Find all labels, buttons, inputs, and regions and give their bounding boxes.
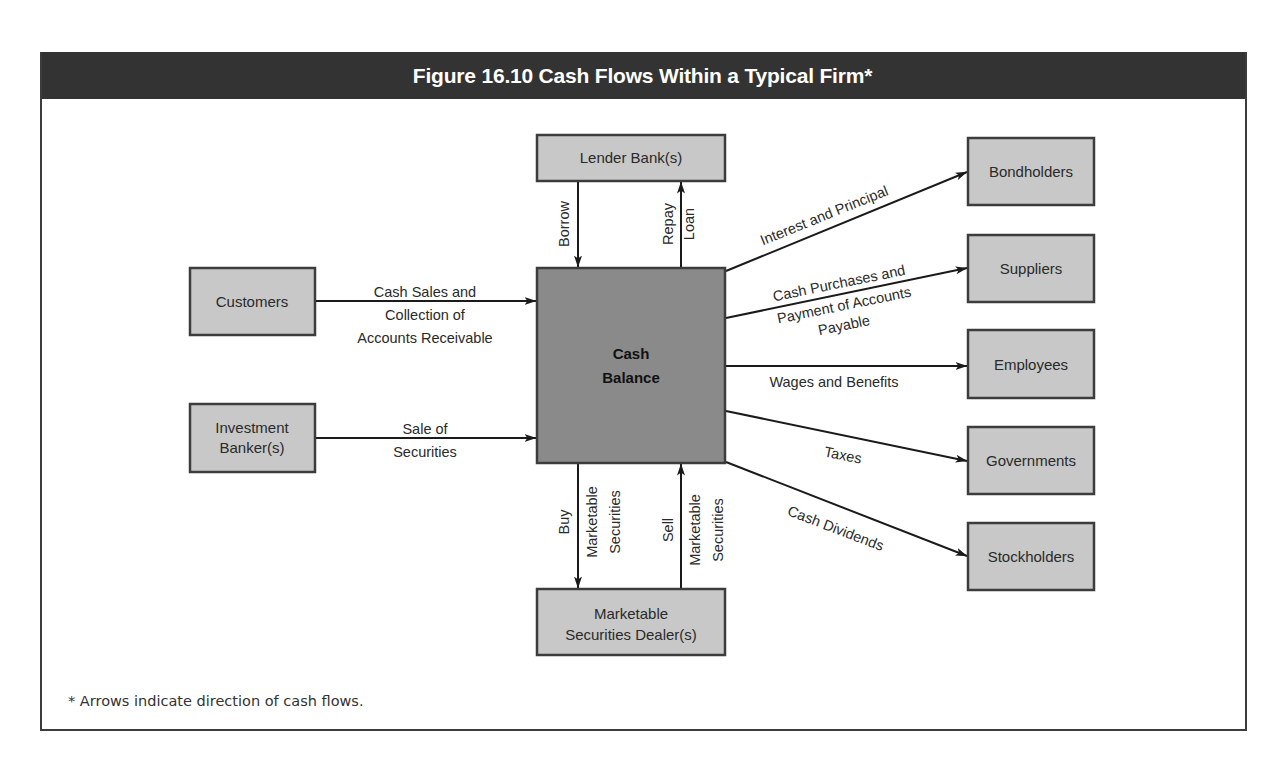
flow-investment-line2: Securities [393, 444, 457, 460]
bondholders-label: Bondholders [989, 163, 1073, 180]
flow-customers-line2: Collection of [385, 307, 466, 323]
flow-buy-line1: Buy [556, 509, 572, 535]
investment-label-line2: Banker(s) [219, 439, 284, 456]
flow-employees: Wages and Benefits [769, 374, 898, 390]
lender-bank-label: Lender Bank(s) [580, 149, 683, 166]
figure-footnote: * Arrows indicate direction of cash flow… [68, 693, 364, 709]
flow-buy-line3: Securities [607, 490, 623, 554]
stockholders-label: Stockholders [988, 548, 1075, 565]
flow-sell-line3: Securities [710, 498, 726, 562]
suppliers-label: Suppliers [1000, 260, 1063, 277]
flow-investment-line1: Sale of [402, 421, 448, 437]
cash-flow-diagram: Lender Bank(s) Customers Investment Bank… [0, 0, 1284, 762]
flow-sell-line2: Marketable [687, 494, 703, 566]
arrow-to-stockholders [726, 462, 967, 556]
flow-stockholders: Cash Dividends [786, 503, 887, 554]
flow-sell-line1: Sell [660, 518, 676, 542]
flow-governments: Taxes [823, 443, 863, 466]
customers-label: Customers [216, 293, 289, 310]
flow-buy-line2: Marketable [584, 486, 600, 558]
node-cash-balance [537, 268, 725, 463]
cash-balance-label-line1: Cash [613, 345, 650, 362]
node-securities-dealer [537, 589, 725, 655]
flow-repay-line1: Repay [660, 202, 676, 245]
investment-label-line1: Investment [215, 419, 289, 436]
flow-repay-line2: Loan [681, 208, 697, 240]
flow-customers-line3: Accounts Receivable [357, 330, 492, 346]
flow-borrow: Borrow [556, 201, 572, 247]
dealer-label-line1: Marketable [594, 605, 668, 622]
flow-customers-line1: Cash Sales and [374, 284, 476, 300]
governments-label: Governments [986, 452, 1076, 469]
node-investment-banker [190, 404, 315, 472]
flow-bondholders: Interest and Principal [758, 182, 890, 248]
employees-label: Employees [994, 356, 1068, 373]
arrow-to-bondholders [726, 172, 967, 271]
dealer-label-line2: Securities Dealer(s) [565, 626, 697, 643]
cash-balance-label-line2: Balance [602, 369, 660, 386]
